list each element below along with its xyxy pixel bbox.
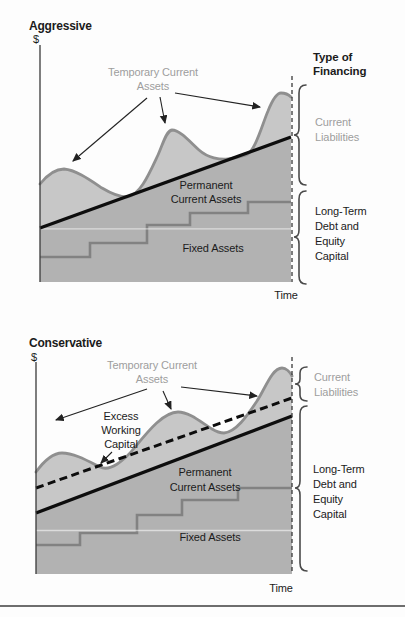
label-line: Long-Term — [315, 204, 367, 219]
label-line: Financing — [313, 64, 366, 78]
label-line: Current Assets — [171, 192, 242, 206]
label-line: Capital — [315, 249, 367, 264]
label-line: Long-Term — [313, 462, 365, 477]
panel-title-conservative: Conservative — [29, 336, 102, 350]
long-term-debt-equity-label: Long-Term Debt and Equity Capital — [313, 462, 365, 522]
label-line: Capital — [313, 507, 365, 522]
arrow-to-peak2-icon — [160, 97, 165, 123]
arrow-to-peak3-icon — [181, 387, 257, 396]
label-line: Temporary Current — [107, 358, 197, 372]
x-axis-label: Time — [269, 581, 293, 595]
arrow-to-peak1-icon — [73, 98, 147, 161]
conservative-current-liabilities-brace — [295, 367, 307, 401]
label-line: Type of — [313, 50, 366, 64]
type-of-financing-header: Type of Financing — [313, 50, 366, 78]
financing-figure: Aggressive $ Temporary Current Assets Pe… — [0, 0, 405, 617]
fixed-assets-label: Fixed Assets — [182, 241, 243, 255]
aggressive-long-term-brace — [294, 191, 306, 284]
label-line: Permanent — [170, 465, 241, 480]
arrow-to-peak2-icon — [163, 391, 171, 409]
current-liabilities-label: Current Liabilities — [315, 115, 359, 144]
permanent-current-assets-label: Permanent Current Assets — [170, 465, 241, 495]
temporary-current-assets-label: Temporary Current Assets — [107, 358, 197, 386]
y-axis-label: $ — [33, 32, 39, 46]
excess-working-capital-label: Excess Working Capital — [101, 409, 140, 451]
aggressive-current-liabilities-brace — [294, 85, 306, 185]
long-term-debt-equity-label: Long-Term Debt and Equity Capital — [315, 204, 367, 264]
temporary-current-assets-label: Temporary Current Assets — [108, 65, 198, 93]
label-line: Liabilities — [315, 130, 359, 145]
label-line: Temporary Current — [108, 65, 198, 79]
label-line: Equity — [315, 234, 367, 249]
permanent-current-assets-label: Permanent Current Assets — [171, 178, 242, 206]
label-line: Debt and — [313, 477, 365, 492]
label-line: Liabilities — [314, 385, 358, 400]
label-line: Excess — [101, 409, 140, 423]
figure-graphics — [0, 0, 405, 617]
label-line: Debt and — [315, 219, 367, 234]
label-line: Current — [315, 115, 359, 130]
arrow-to-peak3-icon — [175, 93, 260, 107]
label-line: Equity — [313, 492, 365, 507]
label-line: Current Assets — [170, 480, 241, 495]
label-line: Working — [101, 423, 140, 437]
fixed-assets-label: Fixed Assets — [179, 530, 240, 544]
x-axis-label: Time — [274, 288, 298, 302]
label-line: Current — [314, 370, 358, 385]
label-line: Assets — [108, 79, 198, 93]
label-line: Permanent — [171, 178, 242, 192]
label-line: Capital — [101, 437, 140, 451]
label-line: Assets — [107, 372, 197, 386]
conservative-long-term-brace — [295, 406, 307, 571]
panel-title-aggressive: Aggressive — [29, 19, 92, 33]
y-axis-label: $ — [31, 350, 37, 364]
current-liabilities-label: Current Liabilities — [314, 370, 358, 399]
